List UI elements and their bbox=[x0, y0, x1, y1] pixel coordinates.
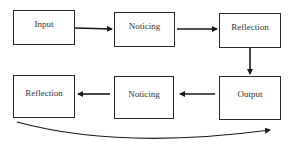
node-reflection-bottom: Reflection bbox=[13, 75, 75, 118]
node-label: Reflection bbox=[220, 22, 280, 32]
node-reflection-top: Reflection bbox=[219, 13, 281, 48]
node-label: Noticing bbox=[115, 21, 174, 31]
node-noticing-bottom: Noticing bbox=[114, 76, 174, 119]
node-label: Noticing bbox=[115, 89, 173, 99]
node-input: Input bbox=[13, 10, 75, 45]
node-label: Reflection bbox=[14, 88, 74, 98]
node-label: Output bbox=[220, 89, 280, 99]
arrow-input-to-noticing bbox=[75, 28, 112, 29]
curved-return-arrow bbox=[17, 122, 270, 138]
node-output: Output bbox=[219, 76, 281, 120]
node-label: Input bbox=[14, 19, 74, 29]
node-noticing-top: Noticing bbox=[114, 12, 175, 47]
